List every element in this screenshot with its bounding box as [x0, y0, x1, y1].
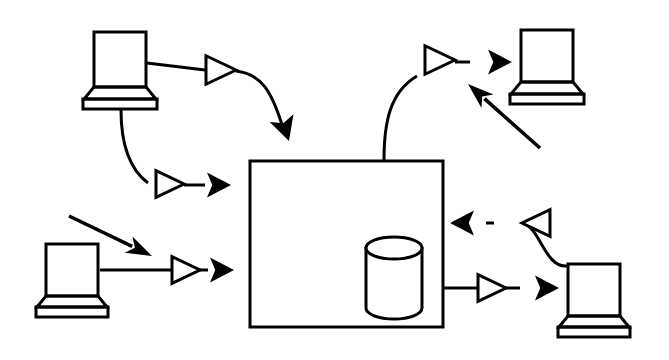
flow-server-to-topright — [384, 46, 512, 160]
annotation-arrow-bottom-left — [69, 216, 156, 264]
central-server-group[interactable] — [250, 161, 443, 327]
annotation-arrows-group — [69, 77, 540, 264]
flow-topleft-to-server-line-tail — [236, 71, 283, 128]
flow-bottomleft-to-server-arrowhead — [210, 258, 234, 283]
flow-bottomleft-to-server — [100, 257, 234, 284]
flow-server-to-bottomright-arrowhead — [535, 276, 559, 301]
flow-server-to-topright-line — [384, 76, 417, 160]
flow-server-to-topright-gateway-triangle — [425, 46, 455, 75]
annotation-arrow-bottom-left-shaft — [69, 216, 132, 246]
terminal-bottom-right-screen — [568, 264, 620, 316]
flow-topleft-to-server-secondary-arrowhead — [207, 173, 231, 198]
annotation-arrow-bottom-left-head — [125, 237, 156, 265]
bottom-right-terminal[interactable] — [558, 264, 630, 337]
terminal-top-right-stand — [511, 82, 583, 94]
terminal-top-left-screen — [94, 32, 146, 87]
terminal-top-left-stand — [84, 87, 156, 99]
terminal-top-right-screen — [521, 30, 573, 82]
flow-server-to-bottomright-gateway-triangle — [478, 275, 506, 302]
flow-server-to-bottomright — [444, 275, 559, 302]
diagram-canvas — [0, 0, 669, 360]
flow-bottomleft-to-server-gateway-triangle — [172, 257, 200, 284]
data-flows-group — [100, 46, 567, 302]
top-left-terminal[interactable] — [83, 32, 157, 109]
flow-topleft-to-server-gateway-triangle — [206, 56, 236, 85]
database-cylinder-top — [366, 237, 422, 259]
flow-topleft-to-server-arrowhead — [270, 114, 301, 145]
terminal-bottom-left-base — [36, 307, 108, 317]
top-right-terminal[interactable] — [510, 30, 584, 104]
flow-topleft-to-server — [147, 56, 301, 145]
terminal-top-left-base — [83, 99, 157, 109]
flow-server-to-topright-arrowhead — [488, 50, 512, 75]
flow-topleft-to-server-secondary-line — [121, 110, 148, 183]
terminal-bottom-right-stand — [559, 316, 629, 327]
bottom-left-terminal[interactable] — [36, 244, 108, 317]
terminal-top-right-base — [510, 94, 584, 104]
annotation-arrow-top-right — [462, 77, 540, 148]
flow-bottomright-to-server-arrowhead — [450, 211, 474, 236]
flow-topleft-to-server-secondary — [121, 110, 231, 197]
terminal-bottom-left-screen — [46, 244, 98, 296]
flow-topleft-to-server-secondary-gateway-triangle — [156, 171, 184, 198]
terminal-bottom-right-base — [558, 327, 630, 337]
flow-bottomright-to-server — [450, 210, 567, 266]
annotation-arrow-top-right-shaft — [484, 99, 540, 148]
dataflow-diagram — [0, 0, 669, 360]
terminal-bottom-left-stand — [37, 296, 107, 307]
flow-topleft-to-server-line — [147, 63, 205, 70]
